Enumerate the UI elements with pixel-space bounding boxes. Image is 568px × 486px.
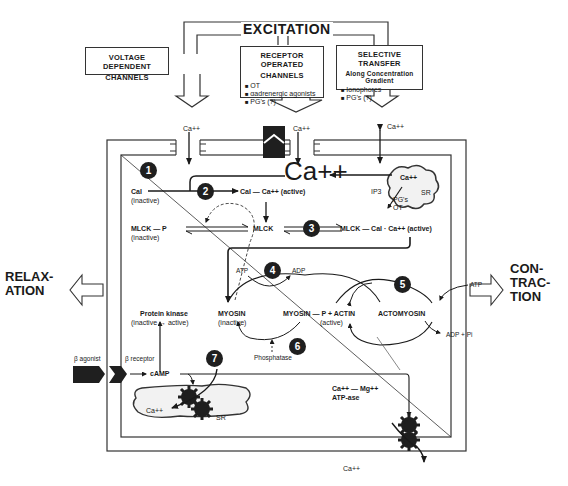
step-1-badge: 1 bbox=[140, 162, 157, 179]
cal-label: Cal bbox=[131, 188, 142, 195]
selective-title: SELECTIVE TRANSFER bbox=[341, 50, 418, 68]
sr-bottom-label: SR bbox=[216, 414, 226, 421]
voltage-title-2: CHANNELS bbox=[86, 73, 168, 82]
cal-ca-active: Cal — Ca++ (active) bbox=[240, 188, 305, 195]
contraction-label: CON- TRAC- TION bbox=[510, 262, 550, 304]
step-5-badge: 5 bbox=[394, 276, 411, 293]
step-2-badge: 2 bbox=[197, 183, 214, 200]
receptor-title-1: RECEPTOR OPERATED bbox=[245, 51, 319, 69]
atpase-line1: Ca++ — Mg++ bbox=[332, 385, 378, 392]
ip3-label: IP3 bbox=[371, 188, 382, 195]
ca-in-receptor: Ca++ bbox=[293, 125, 310, 132]
actomyosin: ACTOMYOSIN bbox=[378, 310, 425, 317]
step-3-badge: 3 bbox=[303, 220, 320, 237]
receptor-item: αadrenergic agonists bbox=[245, 90, 319, 98]
atpase-line2: ATP-ase bbox=[332, 394, 360, 401]
protein-kinase-state: (inactive → active) bbox=[131, 319, 189, 326]
atp-4: ATP bbox=[236, 268, 248, 275]
relaxation-label: RELAX- ATION bbox=[5, 270, 53, 298]
voltage-dependent-channels-box: VOLTAGE DEPENDENT CHANNELS bbox=[85, 47, 169, 75]
phosphatase: Phosphatase bbox=[254, 355, 292, 362]
atp-5: ATP bbox=[470, 282, 482, 289]
receptor-operated-channels-box: RECEPTOR OPERATED CHANNELS OT αadrenergi… bbox=[240, 46, 324, 98]
myosin-p-active: (active) bbox=[320, 319, 343, 326]
myosin: MYOSIN bbox=[218, 310, 246, 317]
adp-4: ADP bbox=[292, 268, 305, 275]
contraction-line1: CON- bbox=[510, 262, 550, 276]
ca-center: Ca++ bbox=[284, 158, 348, 184]
myosin-inactive: (inactive) bbox=[218, 319, 246, 326]
receptor-item: OT bbox=[245, 82, 319, 90]
step-6-badge: 6 bbox=[289, 338, 306, 355]
beta-receptor: β receptor bbox=[125, 356, 154, 363]
ca-in-selective: Ca++ bbox=[387, 123, 404, 130]
step-4-badge: 4 bbox=[264, 262, 281, 279]
receptor-item: PG's (?) bbox=[245, 98, 319, 106]
receptor-title-2: CHANNELS bbox=[245, 71, 319, 80]
selective-subtitle: Along Concentration Gradient bbox=[341, 70, 418, 84]
sr-top-label: SR bbox=[421, 189, 431, 196]
selective-item: PG's (?) bbox=[341, 94, 418, 102]
relaxation-line2: ATION bbox=[5, 284, 53, 298]
mlck-p-inactive: (inactive) bbox=[131, 234, 159, 241]
contraction-line2: TRAC- bbox=[510, 276, 550, 290]
cal-inactive: (inactive) bbox=[131, 197, 159, 204]
mlck-cal-ca-active: MLCK — Cal · Ca++ (active) bbox=[340, 225, 432, 232]
pgs-label: PG's bbox=[393, 196, 408, 203]
adp-pi: ADP + Pi bbox=[446, 332, 472, 339]
sr-top-ca: Ca++ bbox=[400, 174, 417, 181]
step-7-badge: 7 bbox=[206, 350, 223, 367]
relaxation-line1: RELAX- bbox=[5, 270, 53, 284]
ot-label: OT bbox=[393, 204, 403, 211]
ca-out: Ca++ bbox=[343, 465, 360, 472]
voltage-title-1: VOLTAGE DEPENDENT bbox=[86, 53, 168, 71]
camp: cAMP bbox=[150, 370, 169, 377]
sr-bottom-ca: Ca++ bbox=[146, 407, 163, 414]
mlck-p: MLCK — P bbox=[131, 225, 167, 232]
ca-in-voltage: Ca++ bbox=[183, 125, 200, 132]
contraction-line3: TION bbox=[510, 290, 550, 304]
selective-item: Ionophores bbox=[341, 86, 418, 94]
excitation-title: EXCITATION bbox=[241, 22, 333, 36]
beta-agonist: β agonist bbox=[74, 356, 101, 363]
myosin-p-actin: MYOSIN — P + ACTIN bbox=[283, 310, 355, 317]
protein-kinase: Protein kinase bbox=[140, 310, 188, 317]
mlck: MLCK bbox=[253, 225, 273, 232]
selective-transfer-box: SELECTIVE TRANSFER Along Concentration G… bbox=[336, 45, 423, 90]
